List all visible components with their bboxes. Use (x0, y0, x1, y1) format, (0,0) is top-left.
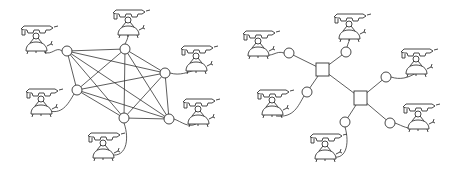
connection-node (119, 113, 129, 123)
telephone-icon (181, 46, 218, 74)
connection-node (160, 68, 170, 78)
telephone-icon (403, 104, 440, 132)
telephone-icon (21, 26, 58, 54)
connection-lines (67, 49, 390, 123)
connection-node (120, 44, 130, 54)
telephones (21, 10, 440, 162)
mesh-link (125, 49, 165, 73)
connection-node (62, 46, 72, 56)
switch-box (316, 63, 329, 76)
mesh-link (125, 49, 169, 119)
mesh-link (67, 49, 125, 51)
connection-node (341, 47, 351, 57)
telephone-icon (257, 90, 294, 118)
connection-node (340, 117, 350, 127)
mesh-link (165, 73, 169, 119)
connection-node (381, 72, 391, 82)
telephone-icon (88, 133, 125, 161)
telephone-icon (113, 10, 150, 38)
telephone-icon (401, 49, 438, 77)
connection-node (385, 118, 395, 128)
mesh-link (77, 90, 124, 118)
switch-box (354, 91, 367, 105)
mesh-link (124, 118, 169, 119)
connection-node (72, 85, 82, 95)
mesh-link (124, 49, 125, 118)
telephone-icon (26, 89, 63, 117)
connection-node (302, 87, 312, 97)
telephone-icon (183, 99, 220, 127)
mesh-link (67, 51, 165, 73)
telephone-icon (310, 134, 347, 162)
connection-node (284, 48, 294, 58)
network-diagrams (0, 0, 457, 174)
telephone-icon (243, 31, 280, 59)
connection-node (164, 114, 174, 124)
telephone-icon (334, 14, 371, 42)
